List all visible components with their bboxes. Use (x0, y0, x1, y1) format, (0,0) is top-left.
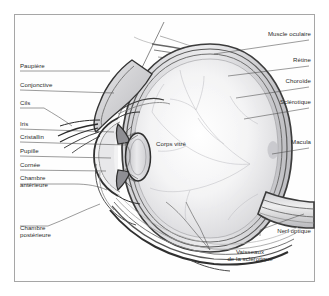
label-paupiere: Paupière (20, 62, 45, 69)
label-cristallin: Cristallin (20, 133, 44, 140)
label-nerf-optique: Nerf optique (201, 227, 311, 234)
vitreous-body (134, 59, 278, 238)
label-retine: Rétine (191, 56, 311, 63)
eye-cross-section-drawing (14, 14, 315, 282)
label-cornee: Cornée (20, 161, 40, 168)
label-conjonctive: Conjonctive (20, 81, 52, 88)
label-sclerotique: Sclérotique (191, 98, 311, 105)
label-pupille: Pupille (20, 147, 39, 154)
label-muscle-oculaire: Muscle oculaire (191, 30, 311, 37)
eye-anatomy-figure: Paupière Conjonctive Cils Iris Cristalli… (0, 0, 329, 296)
label-corps-vitre: Corps vitré (156, 140, 186, 147)
eye-illustration (14, 14, 315, 282)
label-vaisseaux-sclerotique: Vaisseaux de la sclérotique (196, 248, 304, 263)
label-chambre-anterieure: Chambre antérieure (20, 174, 48, 189)
label-macula: Macula (191, 138, 311, 145)
label-choroide: Choroïde (191, 77, 311, 84)
label-cils: Cils (20, 99, 30, 106)
label-chambre-posterieure: Chambre postérieure (20, 224, 51, 239)
label-iris: Iris (20, 120, 28, 127)
crystalline-lens (126, 133, 151, 181)
